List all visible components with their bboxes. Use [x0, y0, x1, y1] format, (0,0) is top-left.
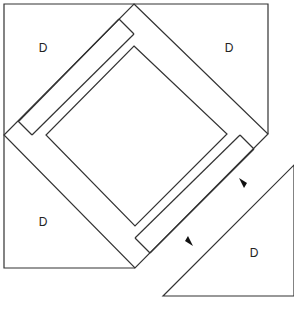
label-detached: D [250, 246, 259, 260]
detached-triangle [163, 165, 294, 296]
strip-mid [150, 149, 254, 253]
strip-seam [238, 136, 252, 150]
strip-seam [18, 121, 32, 135]
strip-seam [19, 120, 34, 135]
quilt-diagram: D D D D [0, 0, 294, 311]
label-top-right: D [225, 41, 234, 55]
label-top-left: D [39, 41, 48, 55]
arrow-icon [239, 178, 247, 188]
strip-seam [240, 135, 254, 149]
label-bottom-left: D [39, 215, 48, 229]
strip-mid [19, 19, 119, 121]
inner-diamond [46, 46, 227, 226]
strip-mid [135, 135, 240, 238]
strip-seam [119, 19, 134, 34]
strip-seam [135, 238, 150, 253]
arrow-icon [185, 236, 193, 246]
arrows [185, 178, 247, 246]
